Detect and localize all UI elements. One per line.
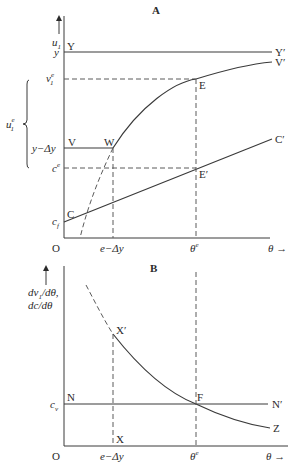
panel-a: A u1 ue1 y Y Y′ ve1 y−Δy V W xyxy=(6,4,287,254)
tick-cf: cf xyxy=(52,215,60,230)
tick-y: y xyxy=(53,46,59,58)
origin-a: O xyxy=(52,242,60,254)
point-x: X xyxy=(116,433,124,445)
brace-label: ue1 xyxy=(6,116,15,133)
curve-x-prime-z xyxy=(113,334,270,428)
panel-a-title: A xyxy=(152,4,160,16)
x-axis-label-a: θ → xyxy=(268,242,287,254)
tick-cv: cv xyxy=(50,398,59,413)
panel-b: B dv1/dθ, dc/dθ X′ cv N N′ F Z X O e−Δy … xyxy=(28,262,288,462)
point-e: E xyxy=(199,79,206,91)
tick-e-minus-dy-a: e−Δy xyxy=(100,242,124,254)
point-y: Y xyxy=(67,40,75,52)
tick-e-minus-dy-b: e−Δy xyxy=(100,450,124,462)
curve-vv-prime xyxy=(113,62,272,148)
point-v-prime: V′ xyxy=(275,56,285,68)
point-f: F xyxy=(197,391,203,403)
curve-extension-dashed xyxy=(80,148,113,238)
point-c: C xyxy=(67,208,74,220)
tick-ce: ce xyxy=(52,161,60,174)
origin-b: O xyxy=(52,450,60,462)
panel-b-y-axis-label-2: dc/dθ xyxy=(28,299,53,311)
point-c-prime: C′ xyxy=(275,133,285,145)
line-cc-prime xyxy=(64,139,272,222)
tick-theta-e-a: θe xyxy=(190,241,199,254)
tick-y-minus-dy: y−Δy xyxy=(31,142,56,154)
curve-dashed-b xyxy=(86,285,113,334)
tick-v1e: ve1 xyxy=(46,71,54,87)
x-axis-label-b: θ → xyxy=(266,450,285,462)
point-v: V xyxy=(68,136,76,148)
point-n: N xyxy=(67,391,75,403)
tick-theta-e-b: θe xyxy=(190,449,199,462)
point-w: W xyxy=(104,136,115,148)
point-x-prime: X′ xyxy=(116,324,126,336)
point-n-prime: N′ xyxy=(272,398,282,410)
point-z: Z xyxy=(273,422,280,434)
point-e-prime: E′ xyxy=(199,168,208,180)
brace-icon xyxy=(23,80,29,168)
panel-b-title: B xyxy=(150,262,158,274)
diagram: A u1 ue1 y Y Y′ ve1 y−Δy V W xyxy=(0,0,306,475)
